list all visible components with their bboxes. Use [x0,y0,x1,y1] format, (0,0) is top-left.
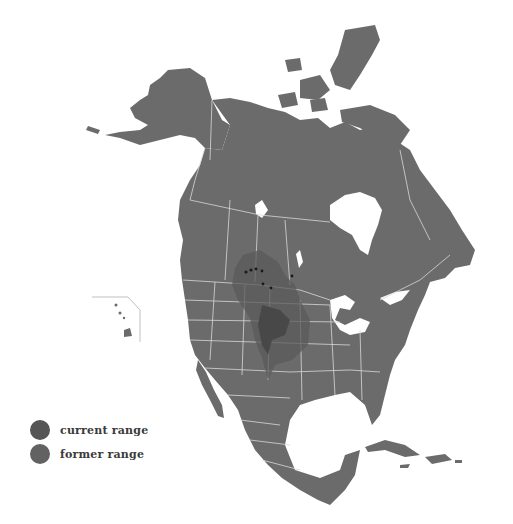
legend: current range former range [30,418,148,466]
legend-item-former-range: former range [30,442,148,466]
alaska [105,68,230,150]
cuba [365,440,420,457]
current-range-swatch [30,420,50,440]
former-range-swatch [30,444,50,464]
legend-label: current range [60,424,148,437]
legend-label: former range [60,448,144,461]
legend-item-current-range: current range [30,418,148,442]
